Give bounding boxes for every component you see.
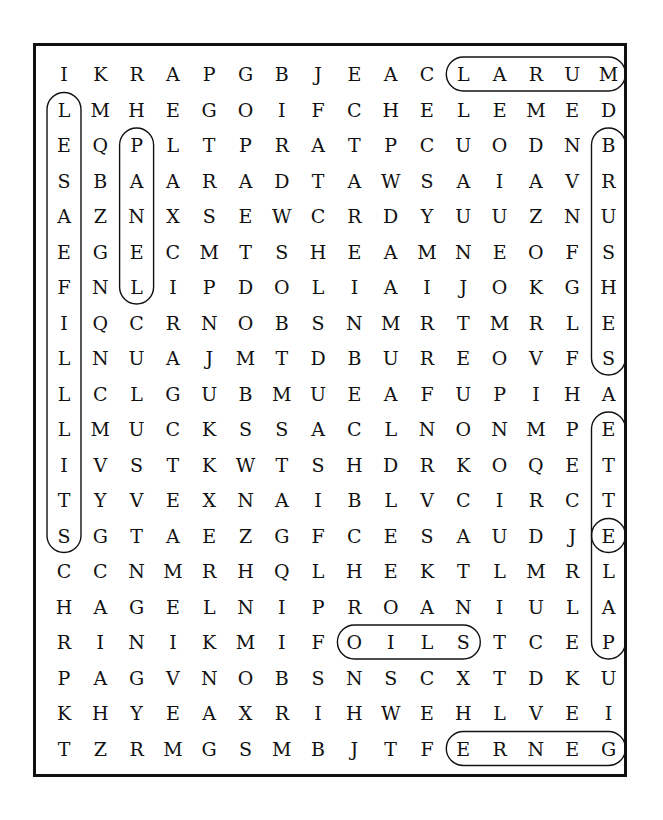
grid-letter[interactable]: R	[482, 731, 518, 767]
grid-letter[interactable]: B	[82, 163, 118, 199]
grid-letter[interactable]: A	[300, 411, 336, 447]
grid-letter[interactable]: G	[554, 269, 590, 305]
grid-letter[interactable]: C	[82, 376, 118, 412]
grid-letter[interactable]: W	[228, 447, 264, 483]
grid-letter[interactable]: A	[300, 127, 336, 163]
grid-letter[interactable]: J	[554, 518, 590, 554]
grid-letter[interactable]: E	[482, 92, 518, 128]
grid-letter[interactable]: O	[264, 269, 300, 305]
grid-letter[interactable]: M	[82, 411, 118, 447]
grid-letter[interactable]: E	[409, 92, 445, 128]
grid-letter[interactable]: O	[482, 447, 518, 483]
grid-letter[interactable]: G	[591, 731, 627, 767]
grid-letter[interactable]: G	[191, 92, 227, 128]
grid-letter[interactable]: E	[336, 376, 372, 412]
grid-letter[interactable]: E	[155, 589, 191, 625]
grid-letter[interactable]: E	[46, 234, 82, 270]
grid-letter[interactable]: I	[482, 163, 518, 199]
grid-letter[interactable]: L	[119, 376, 155, 412]
grid-letter[interactable]: N	[119, 553, 155, 589]
grid-letter[interactable]: N	[336, 305, 372, 341]
grid-letter[interactable]: N	[336, 660, 372, 696]
grid-letter[interactable]: P	[191, 269, 227, 305]
grid-letter[interactable]: S	[300, 447, 336, 483]
grid-letter[interactable]: L	[155, 127, 191, 163]
grid-letter[interactable]: E	[445, 340, 481, 376]
grid-letter[interactable]: P	[300, 589, 336, 625]
grid-letter[interactable]: C	[518, 624, 554, 660]
grid-letter[interactable]: T	[373, 731, 409, 767]
grid-letter[interactable]: V	[82, 447, 118, 483]
grid-letter[interactable]: Q	[518, 447, 554, 483]
grid-letter[interactable]: U	[373, 340, 409, 376]
grid-letter[interactable]: J	[191, 340, 227, 376]
grid-letter[interactable]: U	[518, 589, 554, 625]
grid-letter[interactable]: Q	[82, 305, 118, 341]
grid-letter[interactable]: M	[264, 376, 300, 412]
grid-letter[interactable]: A	[373, 56, 409, 92]
grid-letter[interactable]: S	[591, 234, 627, 270]
grid-letter[interactable]: A	[155, 163, 191, 199]
grid-letter[interactable]: A	[373, 376, 409, 412]
grid-letter[interactable]: K	[191, 624, 227, 660]
grid-letter[interactable]: C	[155, 411, 191, 447]
grid-letter[interactable]: L	[300, 269, 336, 305]
grid-letter[interactable]: V	[155, 660, 191, 696]
grid-letter[interactable]: I	[300, 482, 336, 518]
grid-letter[interactable]: M	[191, 234, 227, 270]
grid-letter[interactable]: O	[482, 127, 518, 163]
grid-letter[interactable]: H	[119, 92, 155, 128]
grid-letter[interactable]: U	[591, 660, 627, 696]
grid-letter[interactable]: K	[46, 695, 82, 731]
grid-letter[interactable]: K	[191, 411, 227, 447]
grid-letter[interactable]: N	[518, 731, 554, 767]
grid-letter[interactable]: C	[300, 198, 336, 234]
grid-letter[interactable]: A	[373, 269, 409, 305]
grid-letter[interactable]: P	[46, 660, 82, 696]
grid-letter[interactable]: D	[300, 340, 336, 376]
grid-letter[interactable]: M	[155, 553, 191, 589]
grid-letter[interactable]: E	[373, 518, 409, 554]
grid-letter[interactable]: L	[119, 269, 155, 305]
grid-letter[interactable]: Y	[82, 482, 118, 518]
grid-letter[interactable]: P	[591, 624, 627, 660]
grid-letter[interactable]: E	[554, 624, 590, 660]
grid-letter[interactable]: R	[336, 589, 372, 625]
grid-letter[interactable]: M	[155, 731, 191, 767]
grid-letter[interactable]: L	[409, 624, 445, 660]
grid-letter[interactable]: C	[409, 56, 445, 92]
grid-letter[interactable]: M	[228, 624, 264, 660]
grid-letter[interactable]: A	[591, 589, 627, 625]
grid-letter[interactable]: S	[445, 624, 481, 660]
grid-letter[interactable]: A	[82, 589, 118, 625]
grid-letter[interactable]: R	[46, 624, 82, 660]
grid-letter[interactable]: K	[518, 269, 554, 305]
grid-letter[interactable]: L	[445, 56, 481, 92]
grid-letter[interactable]: L	[591, 553, 627, 589]
grid-letter[interactable]: B	[336, 482, 372, 518]
grid-letter[interactable]: T	[119, 518, 155, 554]
grid-letter[interactable]: Z	[228, 518, 264, 554]
grid-letter[interactable]: H	[82, 695, 118, 731]
grid-letter[interactable]: L	[46, 340, 82, 376]
grid-letter[interactable]: K	[445, 447, 481, 483]
grid-letter[interactable]: V	[554, 163, 590, 199]
grid-letter[interactable]: R	[409, 340, 445, 376]
grid-letter[interactable]: M	[518, 553, 554, 589]
grid-letter[interactable]: I	[46, 447, 82, 483]
grid-letter[interactable]: G	[228, 56, 264, 92]
grid-letter[interactable]: I	[591, 695, 627, 731]
grid-letter[interactable]: F	[554, 340, 590, 376]
grid-letter[interactable]: T	[482, 624, 518, 660]
grid-letter[interactable]: L	[373, 411, 409, 447]
grid-letter[interactable]: I	[482, 589, 518, 625]
grid-letter[interactable]: E	[554, 695, 590, 731]
grid-letter[interactable]: L	[482, 553, 518, 589]
grid-letter[interactable]: P	[228, 127, 264, 163]
grid-letter[interactable]: O	[228, 92, 264, 128]
grid-letter[interactable]: G	[155, 376, 191, 412]
grid-letter[interactable]: I	[300, 695, 336, 731]
grid-letter[interactable]: O	[336, 624, 372, 660]
grid-letter[interactable]: M	[264, 731, 300, 767]
grid-letter[interactable]: Q	[264, 553, 300, 589]
